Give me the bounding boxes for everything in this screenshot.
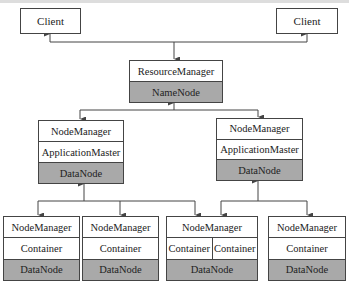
worker-node-box-4: NodeManager Container DataNode bbox=[268, 216, 346, 281]
data-node-label: DataNode bbox=[83, 259, 158, 280]
container-label: Container bbox=[212, 238, 258, 258]
worker-node-box-3: NodeManager Container Container DataNode bbox=[166, 216, 258, 281]
client-label: Client bbox=[277, 9, 337, 33]
master-node-box: ResourceManager NameNode bbox=[129, 60, 223, 103]
worker-node-box-2: NodeManager Container DataNode bbox=[82, 216, 159, 281]
node-manager-label: NodeManager bbox=[39, 121, 123, 141]
client-box-left: Client bbox=[20, 8, 81, 34]
container-label: Container bbox=[269, 237, 345, 258]
node-manager-label: NodeManager bbox=[217, 119, 302, 139]
node-manager-label: NodeManager bbox=[83, 217, 158, 237]
application-master-label: ApplicationMaster bbox=[217, 139, 302, 160]
container-label: Container bbox=[4, 237, 79, 258]
node-manager-label: NodeManager bbox=[4, 217, 79, 237]
node-manager-label: NodeManager bbox=[167, 217, 257, 237]
client-label: Client bbox=[21, 9, 80, 33]
resource-manager-label: ResourceManager bbox=[130, 61, 222, 81]
data-node-label: DataNode bbox=[167, 259, 257, 280]
app-node-box-left: NodeManager ApplicationMaster DataNode bbox=[38, 120, 124, 184]
container-label: Container bbox=[167, 238, 212, 258]
app-node-box-right: NodeManager ApplicationMaster DataNode bbox=[216, 118, 303, 181]
data-node-label: DataNode bbox=[217, 159, 302, 180]
container-label: Container bbox=[83, 237, 158, 258]
client-box-right: Client bbox=[276, 8, 338, 34]
application-master-label: ApplicationMaster bbox=[39, 141, 123, 162]
node-manager-label: NodeManager bbox=[269, 217, 345, 237]
data-node-label: DataNode bbox=[39, 162, 123, 183]
container-row: Container Container bbox=[167, 237, 257, 258]
data-node-label: DataNode bbox=[4, 259, 79, 280]
data-node-label: DataNode bbox=[269, 259, 345, 280]
name-node-label: NameNode bbox=[130, 81, 222, 102]
worker-node-box-1: NodeManager Container DataNode bbox=[3, 216, 80, 281]
